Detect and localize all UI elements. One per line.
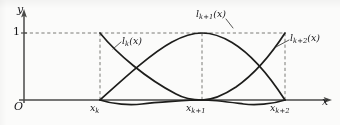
x-tick-label-xk-sub: k	[95, 107, 99, 115]
curve-label-l-k-tail: (x)	[129, 35, 142, 46]
curve-label-l-k1-tail: (x)	[213, 8, 226, 19]
lagrange-basis-figure: y x O 1 xk xk+1 xk+2 lk(x) lk+1(x) lk+2(…	[0, 0, 340, 125]
leader-line-l-k	[113, 42, 121, 49]
curve-label-l-k2-tail: (x)	[307, 32, 320, 43]
x-tick-label-xk: xk	[90, 103, 100, 115]
curve-label-l-k2: lk+2(x)	[290, 33, 320, 45]
axes	[19, 9, 332, 103]
y-axis-label: y	[17, 4, 23, 15]
guide-lines	[24, 33, 285, 100]
curve-label-l-k1: lk+1(x)	[196, 9, 226, 21]
x-tick-label-xk2: xk+2	[270, 103, 290, 115]
curve-label-l-k1-sub: k+1	[199, 13, 213, 21]
origin-label: O	[14, 101, 23, 112]
curve-label-l-k: lk(x)	[122, 36, 142, 48]
x-tick-label-xk1: xk+1	[186, 103, 206, 115]
y-tick-label-one: 1	[13, 26, 20, 37]
curve-label-l-k2-sub: k+2	[293, 37, 307, 45]
x-axis-label: x	[322, 96, 328, 107]
leader-line-l-k1	[226, 19, 233, 28]
x-tick-label-xk2-sub: k+2	[275, 107, 289, 115]
x-tick-label-xk1-sub: k+1	[191, 107, 205, 115]
